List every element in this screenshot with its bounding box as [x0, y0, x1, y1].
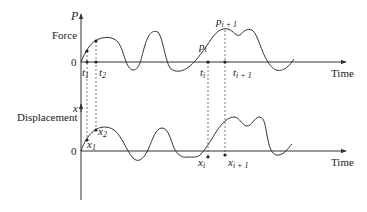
- label-xi: xi: [197, 156, 205, 170]
- displacement-time-label: Time: [331, 156, 354, 168]
- point-ti: [206, 60, 209, 63]
- label-xi1: xi + 1: [227, 156, 249, 170]
- force-displacement-diagram: P Force 0 Time t1 t2 ti ti + 1 pi pi + 1…: [0, 0, 367, 212]
- label-t2: t2: [99, 66, 106, 80]
- label-pi: pi: [198, 40, 207, 54]
- point-xi1: [223, 153, 226, 156]
- point-xi: [206, 155, 209, 158]
- label-ti1: ti + 1: [233, 66, 252, 80]
- point-p2: [94, 39, 97, 42]
- force-curve: [81, 29, 294, 71]
- force-time-label: Time: [331, 67, 354, 79]
- point-p1: [85, 49, 88, 52]
- displacement-axis-title: Displacement: [17, 111, 77, 123]
- point-t1: [85, 60, 88, 63]
- displacement-curve: [81, 117, 292, 160]
- displacement-origin: 0: [71, 145, 77, 157]
- point-t2: [94, 60, 97, 63]
- label-ti: ti: [200, 66, 205, 80]
- label-x1: x1: [86, 138, 96, 152]
- force-axis-label: P: [70, 9, 79, 23]
- point-ti1: [223, 60, 226, 63]
- force-origin: 0: [71, 56, 77, 68]
- label-t1: t1: [82, 66, 89, 80]
- force-axis-title: Force: [52, 29, 77, 41]
- label-pi1: pi + 1: [215, 15, 237, 29]
